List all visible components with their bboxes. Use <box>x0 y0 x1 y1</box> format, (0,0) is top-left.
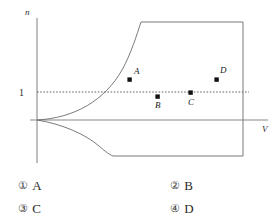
option-2-label: B <box>184 179 193 192</box>
data-point-d <box>214 77 218 81</box>
data-point-b-label: B <box>155 100 161 110</box>
upper-envelope-curve <box>37 22 141 120</box>
option-1[interactable]: ① A <box>18 174 168 197</box>
option-3-marker: ③ <box>18 203 28 214</box>
n-axis-label: n <box>25 7 30 17</box>
option-4-marker: ④ <box>170 203 180 214</box>
option-2[interactable]: ② B <box>168 174 279 197</box>
data-point-a <box>127 77 131 81</box>
data-point-c <box>188 90 192 94</box>
data-point-b <box>155 94 159 98</box>
answer-options: ① A ② B ③ C ④ D <box>0 174 279 223</box>
option-3[interactable]: ③ C <box>18 197 168 220</box>
data-point-c-label: C <box>188 97 195 107</box>
v-axis-label: V <box>262 124 269 134</box>
figure-panel: n V 1 A B C D <box>0 0 279 172</box>
option-4-label: D <box>184 202 194 215</box>
data-point-d-label: D <box>219 65 227 75</box>
option-2-marker: ② <box>170 180 180 191</box>
lower-envelope-curve <box>37 120 113 156</box>
option-1-label: A <box>32 179 42 192</box>
data-point-a-label: A <box>133 66 140 76</box>
nv-plot: n V 1 A B C D <box>0 0 279 172</box>
option-3-label: C <box>32 202 41 215</box>
option-1-marker: ① <box>18 180 28 191</box>
y-tick-label-1: 1 <box>19 87 24 98</box>
option-4[interactable]: ④ D <box>168 197 279 220</box>
